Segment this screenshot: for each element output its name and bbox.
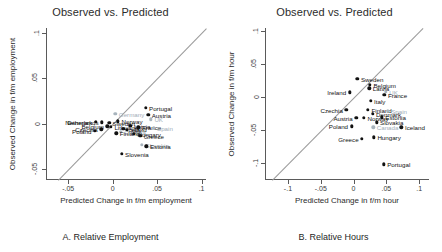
data-point-label: Slovenia xyxy=(125,150,149,157)
panel-a-x-axis-title: Predicted Change in f/m employment xyxy=(60,196,192,205)
panel-b-x-axis-title: Predicted Change in f/m hour xyxy=(295,196,399,205)
panel-b-x-tick xyxy=(354,180,355,184)
data-point xyxy=(383,93,386,96)
panel-b-y-tick xyxy=(261,97,265,98)
panel-b-y-tick xyxy=(261,130,265,131)
panel-b-title: Observed vs. Predicted xyxy=(221,6,442,18)
data-point xyxy=(354,116,357,119)
panel-b-y-tick-label: .05 xyxy=(251,59,258,69)
panel-a-title: Observed vs. Predicted xyxy=(0,6,221,18)
data-point xyxy=(348,91,351,94)
data-point-label: Germany xyxy=(119,111,144,118)
panel-b-x-tick xyxy=(288,180,289,184)
data-point xyxy=(350,125,353,128)
panel-b-x-tick xyxy=(386,180,387,184)
data-point xyxy=(362,116,365,119)
panel-a-y-tick-label: .05 xyxy=(32,73,39,83)
panel-b-y-tick-label: -.1 xyxy=(251,159,258,167)
data-point-label: Czechia xyxy=(320,106,342,113)
panel-b-y-tick-label: 0 xyxy=(254,95,261,99)
data-point xyxy=(382,162,385,165)
data-point xyxy=(147,113,150,116)
data-point xyxy=(149,118,152,121)
panel-a-x-tick-label: 0 xyxy=(111,185,115,192)
panel-b-x-tick xyxy=(321,180,322,184)
panel-relative-hours: Observed vs. Predicted Predicted Change … xyxy=(221,0,442,252)
panel-a-plot-area: Predicted Change in f/m employmentObserv… xyxy=(46,28,206,180)
panel-a-y-tick xyxy=(42,169,46,170)
panel-a-caption: A. Relative Employment xyxy=(0,232,221,242)
panel-relative-employment: Observed vs. Predicted Predicted Change … xyxy=(0,0,221,252)
data-point xyxy=(114,112,117,115)
data-point xyxy=(369,99,372,102)
data-point xyxy=(120,152,123,155)
panel-a-x-tick xyxy=(68,180,69,184)
data-point-label: France xyxy=(388,92,407,99)
panel-a-y-tick xyxy=(42,124,46,125)
data-point-label: Poland xyxy=(72,127,91,134)
data-point xyxy=(366,108,369,111)
panel-b-x-tick-label: -.1 xyxy=(284,185,292,192)
panel-b-x-tick xyxy=(419,180,420,184)
panel-b-y-tick-label: -.05 xyxy=(249,124,256,136)
panel-b-y-axis-title: Observed Change in f/m hour xyxy=(227,52,236,157)
panel-a-x-tick-label: .05 xyxy=(152,185,162,192)
panel-b-x-tick-label: .1 xyxy=(416,185,422,192)
data-point-label: Iceland xyxy=(405,124,425,131)
data-point xyxy=(372,136,375,139)
panel-a-y-tick-label: 0 xyxy=(35,122,42,126)
data-point xyxy=(360,137,363,140)
panel-a-x-tick-label: -.05 xyxy=(62,185,74,192)
panel-a-x-tick xyxy=(202,180,203,184)
panel-a-y-axis-title: Observed Change in f/m employment xyxy=(8,38,17,171)
data-point xyxy=(345,108,348,111)
panel-b-x-tick-label: .05 xyxy=(381,185,391,192)
panel-b-x-axis xyxy=(265,179,429,180)
panel-a-y-tick xyxy=(42,33,46,34)
data-point-label: Portugal xyxy=(149,104,172,111)
data-point-label: Greece xyxy=(144,132,164,139)
data-point xyxy=(115,131,118,134)
panel-b-y-tick-label: .1 xyxy=(253,28,260,34)
data-point-label: UK xyxy=(154,116,163,123)
data-point xyxy=(140,143,143,146)
data-point xyxy=(400,125,403,128)
panel-b-y-axis xyxy=(265,28,266,180)
data-point xyxy=(368,86,371,89)
data-point-label: Estonia xyxy=(150,143,171,150)
panel-a-y-tick xyxy=(42,78,46,79)
panel-a-y-tick-label: -.05 xyxy=(30,163,37,175)
panel-b-plot-area: Predicted Change in f/m hourObserved Cha… xyxy=(265,28,429,180)
panel-a-y-axis xyxy=(46,28,47,180)
data-point-label: Italy xyxy=(374,98,385,105)
data-point xyxy=(144,106,147,109)
panel-b-x-tick-label: 0 xyxy=(352,185,356,192)
panel-a-x-tick xyxy=(113,180,114,184)
panel-a-x-tick-label: .1 xyxy=(199,185,205,192)
panel-b-y-tick xyxy=(261,64,265,65)
panel-a-x-axis xyxy=(46,179,206,180)
data-point xyxy=(372,126,375,129)
data-point-label: Hungary xyxy=(377,134,400,141)
panel-a-x-tick xyxy=(157,180,158,184)
panel-a-reference-line xyxy=(58,28,207,181)
panel-b-y-tick xyxy=(261,31,265,32)
data-point-label: Greece xyxy=(338,135,358,142)
panel-a-y-tick-label: .1 xyxy=(34,30,41,36)
data-point-label: Canada xyxy=(377,124,399,131)
data-point-label: Poland xyxy=(329,123,348,130)
panel-b-y-tick xyxy=(261,163,265,164)
data-point xyxy=(356,77,359,80)
observed-vs-predicted-figure: Observed vs. Predicted Predicted Change … xyxy=(0,0,442,252)
panel-b-reference-line xyxy=(272,28,424,181)
data-point-label: Ireland xyxy=(327,89,346,96)
data-point-label: Austria xyxy=(333,114,352,121)
panel-b-caption: B. Relative Hours xyxy=(221,232,442,242)
panel-b-x-tick-label: -.05 xyxy=(315,185,327,192)
data-point xyxy=(99,128,102,131)
data-point xyxy=(109,125,112,128)
data-point-label: Portugal xyxy=(387,161,410,168)
